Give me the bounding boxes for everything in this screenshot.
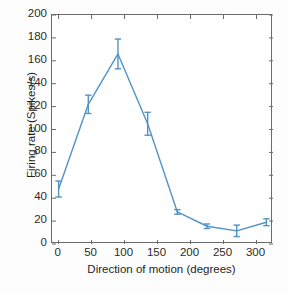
y-tick-label: 140 (1, 77, 47, 88)
error-bar (174, 210, 180, 215)
x-axis-title: Direction of motion (degrees) (40, 263, 283, 275)
x-axis-tick-labels: 050100150200250300 (51, 246, 272, 262)
y-tick-label: 20 (1, 214, 47, 225)
y-tick-label: 60 (1, 168, 47, 179)
x-tick-label: 300 (236, 246, 276, 258)
y-tick-label: 40 (1, 191, 47, 202)
y-tick-label: 120 (1, 100, 47, 111)
error-bars-group (55, 39, 269, 237)
y-axis-tick-labels: 020406080100120140160180200 (0, 14, 47, 243)
figure-container: Firing rate (Spikes/s) 02040608010012014… (0, 0, 287, 294)
plot-area (51, 14, 272, 243)
data-line-series (59, 54, 267, 231)
tick-marks-group (52, 15, 273, 244)
y-tick-label: 100 (1, 123, 47, 134)
y-tick-label: 160 (1, 54, 47, 65)
y-tick-label: 180 (1, 31, 47, 42)
y-tick-label: 200 (1, 8, 47, 19)
y-tick-label: 80 (1, 145, 47, 156)
error-bar (115, 39, 121, 69)
data-plot-svg (52, 15, 273, 244)
